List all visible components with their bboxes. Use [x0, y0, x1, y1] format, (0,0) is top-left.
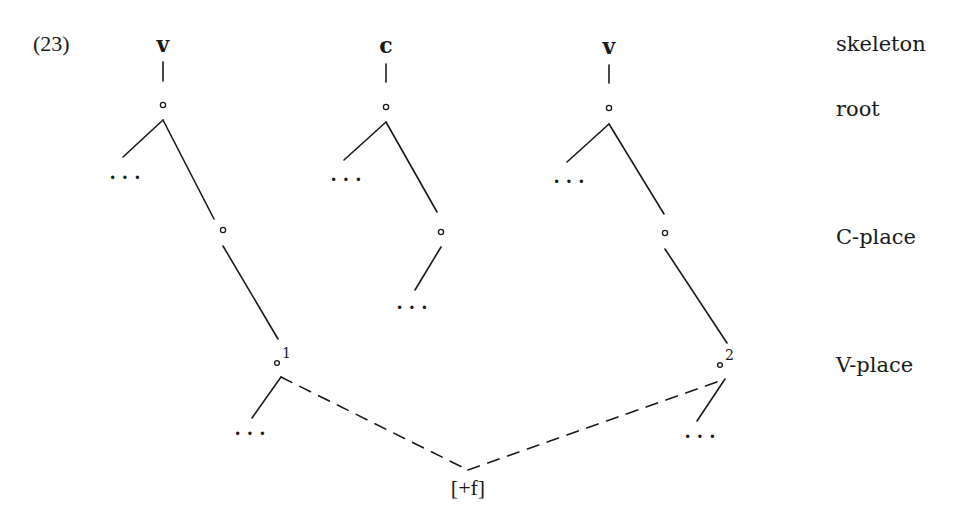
root3-right-branch	[609, 124, 664, 214]
root1-left-branch	[123, 120, 163, 157]
skeleton-segment-c: c	[379, 34, 392, 56]
floating-feature-label: [+f]	[451, 477, 485, 499]
ellipsis-cplace2: ...	[397, 294, 434, 312]
cplace3-to-vplace2	[665, 249, 727, 343]
vplace-index-1: 1	[282, 346, 291, 360]
tier-label-root: root	[836, 99, 880, 120]
diagram-lines	[0, 0, 957, 525]
ellipsis-root2: ...	[331, 166, 368, 184]
vplace1-feature-link	[281, 377, 468, 470]
skeleton-segment-v1: v	[157, 33, 170, 55]
vplace-node-2	[718, 363, 723, 368]
vplace-index-2: 2	[725, 348, 734, 362]
example-number: (23)	[33, 33, 70, 55]
ellipsis-vplace1: ...	[235, 420, 272, 438]
root3-left-branch	[567, 124, 609, 162]
tier-label-c-place: C-place	[836, 227, 916, 248]
cplace-node-2	[438, 229, 443, 234]
root-node-2	[383, 104, 388, 109]
ellipsis-vplace2: ...	[685, 423, 722, 441]
root2-left-branch	[344, 122, 386, 160]
ellipsis-root1: ...	[110, 164, 147, 182]
root-node-3	[606, 105, 611, 110]
vplace2-left-branch	[697, 379, 725, 421]
vplace1-left-branch	[252, 377, 281, 418]
root-node-1	[160, 102, 165, 107]
cplace2-down-branch	[415, 247, 441, 290]
tier-label-v-place: V-place	[836, 355, 913, 376]
skeleton-segment-v2: v	[603, 35, 616, 57]
ellipsis-root3: ...	[554, 168, 591, 186]
cplace1-to-vplace1	[223, 246, 278, 339]
autosegmental-diagram: (23) v c v ... ... ... ... ... ... 1 2 […	[0, 0, 957, 525]
vplace-node-1	[275, 361, 280, 366]
root1-right-branch	[163, 120, 214, 219]
cplace-node-3	[662, 230, 667, 235]
root2-right-branch	[386, 122, 437, 212]
cplace-node-1	[220, 227, 225, 232]
tier-label-skeleton: skeleton	[836, 34, 926, 55]
